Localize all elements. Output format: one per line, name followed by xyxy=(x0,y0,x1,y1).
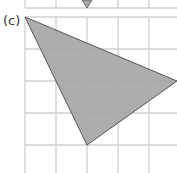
top-triangle-tip xyxy=(82,0,92,8)
top-partial-grid xyxy=(25,0,177,8)
grid-figure xyxy=(0,0,177,173)
